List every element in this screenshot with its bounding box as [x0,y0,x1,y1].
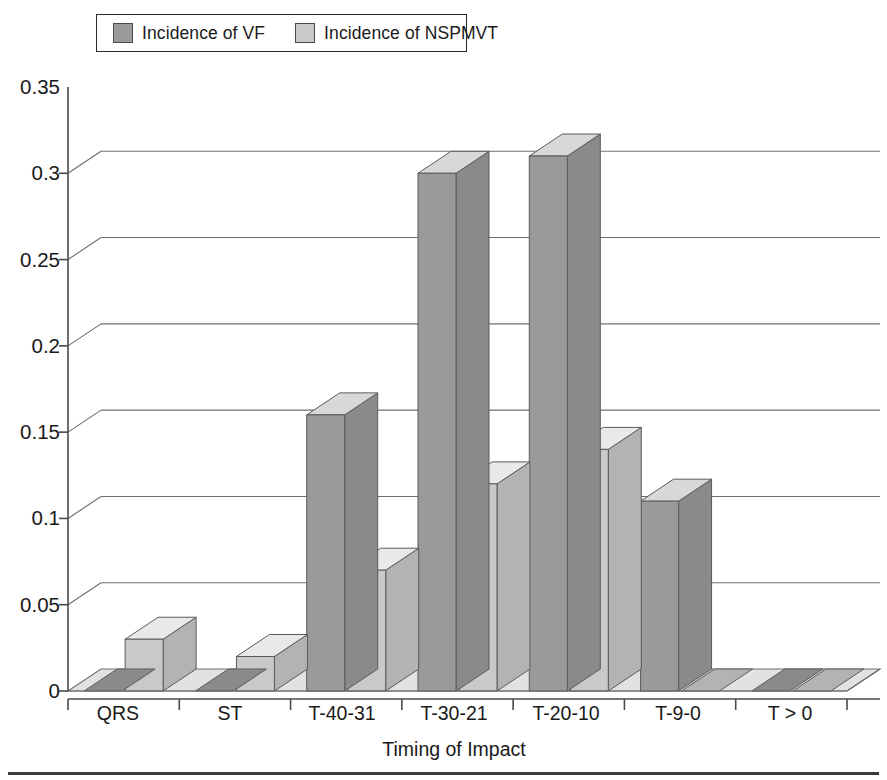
x-axis-title: Timing of Impact [62,738,846,761]
bar-t-40-31-s0 [307,393,378,691]
bar-side-face [345,393,378,691]
y-tick-label: 0.35 [0,75,60,99]
y-tick-label: 0.3 [0,161,60,185]
y-tick-label: 0.1 [0,506,60,530]
y-tick-label: 0.25 [0,248,60,272]
bottom-divider [8,772,879,775]
gridline-depth [68,151,101,173]
bar-t-20-10-s0 [529,134,600,691]
bar-chart: Incidence of VF Incidence of NSPMVT 0.35… [0,0,887,780]
x-tick-label-t-30-21: T-30-21 [398,702,510,732]
y-axis-tick-labels: 0.350.30.250.20.150.10.050 [0,0,60,780]
gridline-depth [68,496,101,518]
chart-bars [84,134,864,691]
x-tick-label-qrs: QRS [62,702,174,732]
bar-front-face [641,501,679,691]
x-tick-label-t-0: T > 0 [734,702,846,732]
bar-side-face [456,151,489,691]
bar-t-30-21-s0 [418,151,489,691]
gridline-depth [68,583,101,605]
bar-side-face [679,479,712,691]
bar-side-face [497,462,530,691]
y-tick-label: 0 [0,679,60,703]
y-tick-label: 0.15 [0,420,60,444]
bar-side-face [608,427,641,691]
gridline-depth [68,410,101,432]
bar-front-face [307,415,345,691]
x-tick-label-t-9-0: T-9-0 [622,702,734,732]
x-tick-label-t-20-10: T-20-10 [510,702,622,732]
gridline-depth [68,238,101,260]
gridline-depth [68,324,101,346]
bar-side-face [386,548,419,691]
bar-front-face [418,173,456,691]
y-tick-label: 0.2 [0,334,60,358]
bar-t-9-0-s0 [641,479,712,691]
x-tick-label-t-40-31: T-40-31 [286,702,398,732]
x-axis-tick-labels: QRSSTT-40-31T-30-21T-20-10T-9-0T > 0 [62,702,846,732]
bar-front-face [529,156,567,691]
x-tick-label-st: ST [174,702,286,732]
plot-area [0,0,887,780]
bar-side-face [567,134,600,691]
y-tick-label: 0.05 [0,593,60,617]
